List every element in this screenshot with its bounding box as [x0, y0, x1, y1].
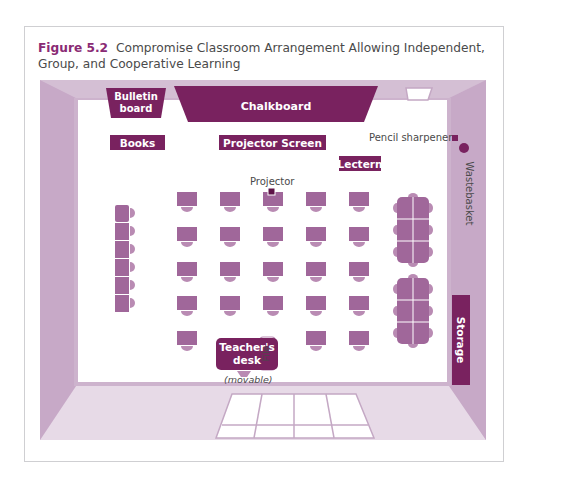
classroom-diagram: Bulletin board Chalkboard Books Projecto… [40, 80, 486, 440]
student-desks [40, 80, 486, 440]
group-table-2 [393, 274, 433, 348]
file-cabinet-label: File [260, 346, 271, 362]
figure-caption: Figure 5.2Compromise Classroom Arrangeme… [38, 40, 508, 72]
group-table-1 [393, 193, 433, 267]
storage-cabinet: Storage [452, 295, 470, 385]
teachers-desk-line2: desk [233, 354, 261, 367]
storage-label: Storage [455, 317, 467, 364]
movable-note: (movable) [224, 374, 272, 385]
figure-number: Figure 5.2 [38, 41, 108, 55]
